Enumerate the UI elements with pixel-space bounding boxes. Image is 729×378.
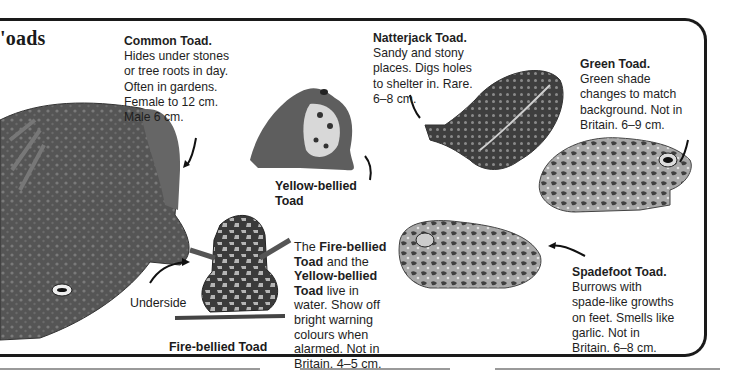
note-line-7: alarmed. Not in [294, 342, 379, 356]
caption-line: or tree roots in day. [124, 64, 228, 78]
caption-line: Burrows with [572, 280, 642, 294]
spadefoot-toad-caption: Spadefoot Toad. Burrows with spade-like … [572, 265, 674, 356]
note-line-5: bright warning [294, 313, 373, 327]
natterjack-toad-caption: Natterjack Toad. Sandy and stony places.… [373, 31, 473, 107]
fire-bellied-toad-label: Fire-bellied Toad [169, 340, 267, 355]
caption-line: Green shade [580, 72, 650, 86]
fire-yellow-bellied-note: The Fire-bellied Toad and the Yellow-bel… [294, 240, 386, 371]
fire-bellied-toad-illustration [175, 215, 290, 318]
caption-line: Male 6 cm. [124, 110, 184, 124]
spadefoot-toad-illustration [399, 221, 541, 288]
spadefoot-toad-name: Spadefoot Toad. [572, 265, 667, 279]
caption-line: background. Not in [580, 103, 682, 117]
green-toad-illustration [539, 138, 691, 212]
note-line-4: water. Show off [294, 298, 380, 312]
caption-line: Hides under stones [124, 49, 229, 63]
label-line: Toad [275, 194, 304, 208]
caption-line: changes to match [580, 87, 676, 101]
caption-line: Female to 12 cm. [124, 95, 218, 109]
label-line: Yellow-bellied [275, 179, 357, 193]
note-line-3: Toad live in [294, 284, 359, 298]
caption-line: places. Digs holes [373, 61, 472, 75]
green-toad-name: Green Toad. [580, 57, 650, 71]
caption-line: on feet. Smells like [572, 311, 674, 325]
green-toad-caption: Green Toad. Green shade changes to match… [580, 57, 682, 133]
note-line-1: Toad and the [294, 255, 369, 269]
natterjack-toad-name: Natterjack Toad. [373, 31, 467, 45]
caption-line: garlic. Not in [572, 326, 640, 340]
common-toad-caption: Common Toad. Hides under stones or tree … [124, 34, 229, 125]
note-line-6: colours when [294, 328, 368, 342]
common-toad-name: Common Toad. [124, 34, 212, 48]
caption-line: Often in gardens. [124, 80, 218, 94]
note-line-2: Yellow-bellied [294, 269, 377, 283]
caption-line: spade-like growths [572, 295, 674, 309]
yellow-bellied-toad-label: Yellow-bellied Toad [275, 179, 357, 209]
note-line-0: The Fire-bellied [294, 240, 386, 254]
caption-line: 6–8 cm. [373, 92, 416, 106]
caption-line: to shelter in. Rare. [373, 77, 473, 91]
underside-label: Underside [130, 296, 186, 310]
caption-line: Britain. 6–8 cm. [572, 341, 657, 355]
note-line-8: Britain. 4–5 cm. [294, 357, 382, 371]
caption-line: Sandy and stony [373, 46, 464, 60]
caption-line: Britain. 6–9 cm. [580, 118, 665, 132]
yellow-bellied-toad-illustration [250, 88, 354, 170]
